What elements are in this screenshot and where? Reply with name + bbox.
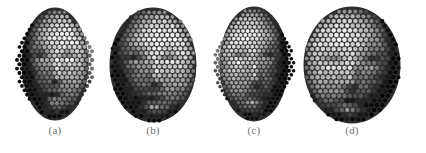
mesh-cell: [383, 89, 388, 94]
mesh-cell: [315, 28, 319, 32]
mesh-cell: [366, 98, 371, 103]
mesh-cell: [375, 75, 380, 80]
mesh-cell: [350, 14, 355, 19]
mesh-cell: [380, 28, 384, 32]
mesh-cell: [366, 42, 371, 47]
figure-panel-d: (d): [0, 0, 426, 153]
mesh-cell: [350, 51, 355, 56]
mesh-cell: [321, 65, 326, 70]
mesh-cell: [391, 66, 395, 70]
mesh-cell: [342, 47, 347, 52]
mesh-cell: [318, 24, 322, 28]
mesh-cell: [326, 28, 331, 33]
mesh-cell: [323, 33, 328, 38]
mesh-cell: [361, 51, 366, 56]
mesh-cell: [312, 61, 317, 66]
mesh-cell: [380, 84, 385, 89]
mesh-cell: [358, 65, 363, 70]
mesh-cell: [375, 19, 379, 23]
mesh-cell: [350, 23, 355, 28]
mesh-cell: [318, 42, 323, 47]
mesh-cell: [323, 51, 328, 56]
mesh-cell: [348, 112, 352, 116]
mesh-cell: [331, 19, 336, 24]
mesh-cell: [369, 47, 374, 52]
mesh-cell: [340, 117, 344, 121]
mesh-cell: [385, 84, 390, 89]
mesh-cell: [323, 98, 328, 103]
mesh-cell: [331, 93, 336, 98]
mesh-cell: [350, 108, 355, 113]
face-mesh-render-d: [0, 0, 426, 130]
mesh-cell: [307, 52, 311, 56]
mesh-cell: [380, 103, 384, 107]
mesh-cell: [313, 99, 317, 103]
mesh-cell: [342, 93, 347, 98]
mesh-cell: [358, 37, 363, 42]
mesh-cell: [310, 38, 314, 42]
mesh-cell: [342, 84, 347, 89]
mesh-cell: [375, 94, 380, 99]
mesh-cell: [334, 117, 338, 121]
mesh-cell: [375, 56, 380, 61]
mesh-cell: [353, 10, 357, 14]
mesh-cell: [329, 79, 334, 84]
mesh-cell: [380, 65, 385, 70]
mesh-cell: [367, 108, 372, 113]
mesh-cell: [334, 14, 338, 18]
mesh-cell: [310, 94, 314, 98]
mesh-cell: [324, 108, 328, 112]
mesh-cell: [305, 47, 309, 51]
mesh-cell: [331, 37, 336, 42]
mesh-cell: [397, 66, 401, 70]
mesh-cell: [350, 61, 355, 66]
mesh-cell: [350, 33, 355, 38]
mesh-cell: [305, 56, 309, 60]
mesh-cell: [339, 33, 344, 38]
mesh-cell: [388, 51, 393, 56]
mesh-cell: [372, 23, 377, 28]
mesh-cell: [369, 75, 374, 80]
mesh-cell: [337, 112, 341, 116]
mesh-cell: [364, 19, 369, 24]
mesh-cell: [313, 80, 318, 85]
mesh-cell: [348, 56, 353, 61]
mesh-cell: [358, 19, 363, 24]
mesh-cell: [348, 93, 353, 98]
mesh-cell: [318, 61, 323, 66]
mesh-cell: [364, 75, 369, 80]
mesh-cell: [361, 98, 366, 103]
mesh-cell: [342, 28, 347, 33]
mesh-cell: [307, 70, 311, 74]
mesh-cell: [345, 70, 350, 75]
mesh-cell: [353, 93, 358, 98]
mesh-cell: [377, 51, 382, 56]
mesh-cell: [307, 61, 311, 65]
mesh-cell: [366, 70, 371, 75]
mesh-cell: [356, 108, 361, 113]
mesh-cell: [313, 33, 317, 37]
figure-panel-row: (a)(b)(c)(d): [0, 0, 426, 153]
mesh-cell: [388, 42, 392, 46]
mesh-cell: [358, 112, 362, 116]
mesh-cell: [337, 47, 342, 52]
mesh-cell: [391, 47, 395, 51]
mesh-cell: [377, 42, 382, 47]
mesh-cell: [394, 80, 398, 84]
mesh-cell: [337, 75, 342, 80]
mesh-cell: [356, 117, 360, 121]
mesh-cell: [366, 33, 371, 38]
mesh-cell: [353, 65, 358, 70]
mesh-cell: [358, 75, 363, 80]
mesh-cell: [350, 89, 355, 94]
mesh-cell: [310, 66, 315, 71]
mesh-cell: [372, 108, 376, 112]
mesh-cell: [337, 28, 342, 33]
mesh-cell: [342, 19, 347, 24]
mesh-cell: [356, 14, 361, 19]
mesh-cell: [358, 56, 363, 61]
mesh-cell: [329, 89, 334, 94]
mesh-cell: [321, 28, 326, 32]
mesh-cell: [386, 28, 390, 32]
mesh-cell: [337, 65, 342, 70]
